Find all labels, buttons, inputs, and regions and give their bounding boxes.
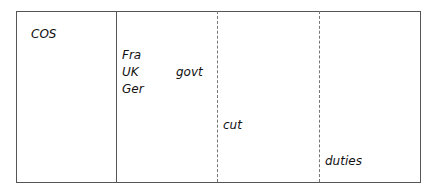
label-cut: cut [223, 118, 242, 132]
label-uk: UK [122, 65, 139, 79]
label-cos: COS [31, 27, 56, 41]
label-duties: duties [325, 154, 362, 168]
label-govt: govt [176, 65, 203, 79]
divider-dashed-1 [217, 11, 218, 182]
label-ger: Ger [122, 82, 144, 96]
divider-dashed-2 [319, 11, 320, 182]
label-fra: Fra [122, 48, 141, 62]
divider-solid [116, 11, 117, 182]
